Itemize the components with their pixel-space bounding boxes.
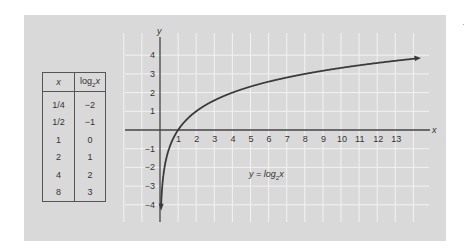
x-tick-label: 5 xyxy=(249,134,254,144)
y-axis-label: y xyxy=(156,26,162,36)
x-tick-label: 3 xyxy=(212,134,217,144)
eq-var: x xyxy=(279,169,284,179)
x-axis-label: x xyxy=(431,125,437,135)
y-tick-label: 1 xyxy=(150,106,155,116)
y-tick-label: 3 xyxy=(150,69,155,79)
y-tick-label: −1 xyxy=(145,144,155,154)
x-tick-label: 6 xyxy=(267,134,272,144)
y-tick-label: 4 xyxy=(150,50,155,60)
log-plot: xy123456789101112134321−1−2−3−4 xyxy=(0,0,469,252)
x-tick-label: 9 xyxy=(321,134,326,144)
curve-arrow-right-icon xyxy=(414,55,421,61)
x-tick-label: 11 xyxy=(355,134,364,144)
x-tick-label: 1 xyxy=(176,134,181,144)
y-tick-label: 2 xyxy=(150,88,155,98)
x-tick-label: 12 xyxy=(373,134,383,144)
speck xyxy=(463,24,464,25)
x-tick-label: 2 xyxy=(194,134,199,144)
x-tick-label: 13 xyxy=(391,134,401,144)
x-tick-label: 10 xyxy=(337,134,347,144)
y-tick-label: −3 xyxy=(145,181,155,191)
eq-lhs: y = log xyxy=(249,169,276,179)
x-tick-label: 7 xyxy=(285,134,290,144)
x-tick-label: 8 xyxy=(303,134,308,144)
y-tick-label: −4 xyxy=(145,200,155,210)
equation-label: y = log2x xyxy=(249,169,284,181)
y-tick-label: −2 xyxy=(145,162,155,172)
x-tick-label: 4 xyxy=(230,134,235,144)
